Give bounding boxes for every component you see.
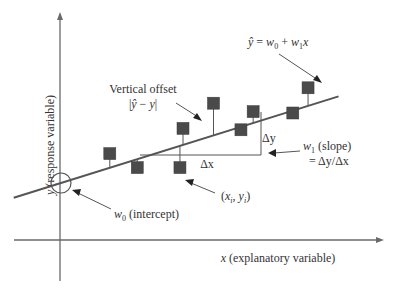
intercept-label: w0 (intercept) [114, 207, 179, 223]
delta-y-label: Δy [262, 131, 276, 145]
data-point [208, 97, 220, 109]
x-axis-arrow-icon [376, 237, 384, 243]
vertical-offset-pointer [176, 103, 198, 117]
arrow-head-icon [72, 189, 81, 196]
data-point [104, 148, 116, 160]
data-point [302, 82, 314, 94]
data-point [247, 106, 259, 118]
y-axis-arrow-icon [57, 12, 63, 20]
slope-label: w1 (slope) [303, 139, 351, 155]
arrow-head-icon [313, 75, 322, 83]
vertical-offset-formula: |ŷ − y| [129, 97, 157, 111]
point-label: (xi, yi) [221, 189, 250, 205]
data-point [235, 124, 247, 136]
vertical-offset-label: Vertical offset [109, 82, 177, 96]
arrow-head-icon [185, 179, 194, 186]
delta-x-label: Δx [200, 157, 214, 171]
slope-formula: = Δy/Δx [309, 154, 349, 168]
point-pointer [191, 183, 215, 193]
data-point [174, 162, 186, 174]
data-point [131, 162, 143, 174]
equation-pointer [279, 54, 318, 80]
arrow-head-icon [268, 149, 276, 157]
x-axis-label: x (explanatory variable) [220, 251, 336, 265]
regression-equation: ŷ = w0 + w1x [247, 35, 309, 51]
data-point [177, 122, 189, 134]
intercept-pointer [78, 193, 111, 209]
data-point [287, 107, 299, 119]
y-axis-label: y (response variable) [43, 95, 57, 196]
regression-diagram: y (response variable) x (explanatory var… [0, 0, 395, 292]
slope-pointer [274, 151, 300, 153]
